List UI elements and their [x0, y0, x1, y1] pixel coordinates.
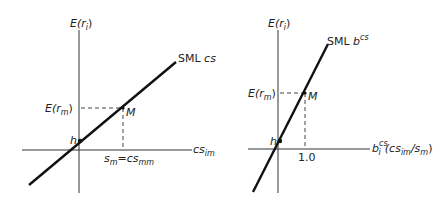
right-y-axis-label: E(ri) [268, 17, 290, 32]
left-y-tick-label: E(rm) [45, 102, 73, 117]
right-intercept-label: h [270, 135, 277, 148]
right-sml-label: SML bcs [327, 33, 369, 48]
right-sml-line [253, 44, 328, 192]
right-x-tick-label: 1.0 [298, 151, 316, 164]
left-market-point [121, 106, 124, 109]
sml-diagram: E(ri) SML cs E(rm) M h csim sm=csmm E(ri… [0, 0, 444, 205]
right-market-point [303, 91, 306, 94]
left-panel: E(ri) SML cs E(rm) M h csim sm=csmm [22, 17, 216, 193]
left-intercept-point [78, 139, 82, 143]
right-x-axis-label: bcsi(csim/sm) [372, 139, 432, 157]
right-y-tick-label: E(rm) [248, 87, 276, 102]
right-panel: E(ri) SML bcs E(rm) M h 1.0 bcsi(csim/sm… [248, 17, 432, 193]
left-market-point-label: M [126, 106, 136, 119]
right-intercept-point [278, 139, 282, 143]
left-intercept-label: h [70, 134, 77, 147]
left-y-axis-label: E(ri) [70, 17, 92, 32]
right-market-point-label: M [308, 90, 318, 103]
left-sml-label: SML cs [178, 52, 216, 65]
left-x-tick-label: sm=csmm [104, 152, 154, 167]
left-x-axis-label: csim [193, 143, 215, 158]
